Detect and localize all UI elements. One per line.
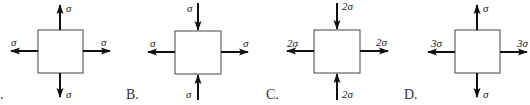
option-b: σ σ σ σ B. bbox=[126, 2, 249, 102]
stress-label-right: σ bbox=[243, 37, 249, 49]
option-a: σ σ σ σ . bbox=[0, 2, 110, 102]
option-c: 2σ 2σ 2σ 2σ C. bbox=[266, 0, 388, 102]
stress-element-square bbox=[314, 30, 360, 73]
stress-element-square bbox=[455, 30, 500, 73]
option-label: D. bbox=[404, 87, 418, 102]
stress-label-left: σ bbox=[150, 37, 156, 49]
stress-label-right: σ bbox=[101, 36, 107, 48]
option-label: B. bbox=[126, 87, 139, 102]
stress-label-left: σ bbox=[11, 36, 17, 48]
stress-label-bottom: σ bbox=[483, 88, 489, 100]
stress-label-right: 3σ bbox=[516, 37, 529, 49]
stress-label-left: 3σ bbox=[430, 37, 443, 49]
stress-label-bottom: σ bbox=[186, 88, 192, 100]
stress-label-top: σ bbox=[187, 2, 193, 14]
stress-element-options-diagram: σ σ σ σ . σ σ σ σ B. 2σ 2σ 2σ 2σ C. bbox=[0, 0, 530, 105]
stress-label-bottom: σ bbox=[66, 88, 72, 100]
stress-element-square bbox=[38, 30, 83, 73]
stress-label-bottom: 2σ bbox=[342, 88, 354, 100]
stress-element-square bbox=[175, 31, 221, 74]
option-label: . bbox=[0, 87, 4, 102]
stress-label-top: σ bbox=[483, 2, 489, 14]
stress-label-top: σ bbox=[66, 2, 72, 14]
option-label: C. bbox=[266, 87, 279, 102]
stress-label-left: 2σ bbox=[287, 37, 299, 49]
stress-label-top: 2σ bbox=[342, 0, 354, 12]
option-d: σ σ 3σ 3σ D. bbox=[404, 2, 529, 102]
stress-label-right: 2σ bbox=[376, 36, 388, 48]
